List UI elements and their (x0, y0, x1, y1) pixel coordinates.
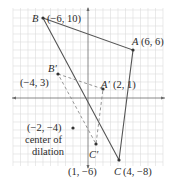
label-c-coords: (4, −8) (123, 166, 152, 178)
label-center-line2: dilation (32, 146, 65, 157)
label-a-prime-coords: (2, 1) (113, 79, 136, 91)
label-center-line1: center of (25, 134, 63, 145)
label-c: C (114, 166, 122, 177)
label-b-prime: B′ (48, 63, 57, 74)
point-center-of-dilation (71, 126, 74, 129)
label-center-coords: (−2, −4) (27, 122, 62, 134)
x-axis-arrow-left (12, 97, 16, 100)
label-b: B (32, 13, 39, 24)
point-b (41, 16, 44, 19)
y-axis-arrow-up (87, 7, 90, 11)
label-b-prime-coords: (−4, 3) (20, 77, 49, 89)
label-a: A (131, 36, 139, 47)
label-b-coords: (−6, 10) (47, 13, 81, 25)
point-c-prime (94, 142, 97, 145)
label-a-prime: A′ (100, 79, 110, 90)
point-c (117, 158, 120, 161)
point-a (131, 48, 134, 51)
coordinate-plane: B (−6, 10) A (6, 6) C (4, −8) B′ (−4, 3)… (0, 0, 175, 188)
point-b-prime (56, 72, 59, 75)
label-c-prime-coords: (1, −6) (68, 166, 97, 178)
label-a-coords: (6, 6) (141, 36, 164, 48)
label-c-prime: C′ (89, 149, 99, 160)
